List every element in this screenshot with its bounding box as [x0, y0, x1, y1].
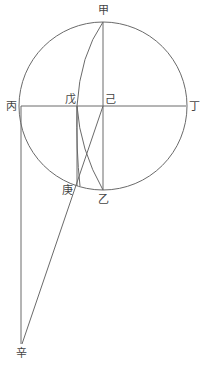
label-ji: 己 — [105, 93, 116, 106]
label-wu: 戊 — [65, 93, 76, 106]
line-ji-xin — [22, 106, 103, 344]
geometry-diagram: 甲 丙 戊 己 丁 庚 乙 辛 — [0, 0, 205, 366]
arc-jia-wu — [77, 22, 103, 186]
label-yi: 乙 — [98, 193, 109, 206]
label-ding: 丁 — [189, 100, 200, 113]
label-geng: 庚 — [62, 183, 73, 197]
label-xin: 辛 — [16, 346, 27, 360]
label-jia: 甲 — [98, 4, 109, 17]
label-bing: 丙 — [6, 100, 17, 113]
